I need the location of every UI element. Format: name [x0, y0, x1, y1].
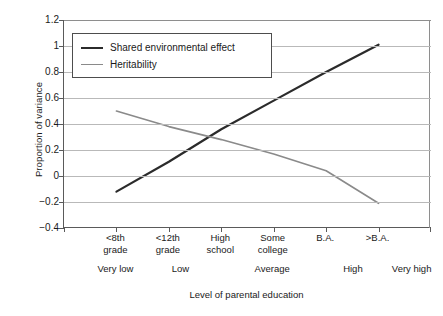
y-axis-tick-label: 0	[29, 171, 59, 181]
x-axis-category-labels: <8thgrade<12thgradeHighschoolSomecollege…	[63, 232, 430, 258]
x-axis-category-label-line: college	[233, 244, 313, 256]
y-axis-tick-label: 0.6	[29, 93, 59, 103]
y-axis-tick-label: −0.2	[29, 197, 59, 207]
y-axis-tickmark	[59, 202, 64, 203]
legend-item-label: Shared environmental effect	[110, 42, 235, 53]
x-axis-group-label: Low	[130, 263, 230, 275]
gridline	[64, 98, 431, 99]
x-axis-group-labels: Very lowLowAverageHighVery high	[63, 263, 430, 277]
chart-container: Proportion of variance 1.210.80.60.40.20…	[0, 0, 443, 316]
x-axis-tickmark	[430, 227, 431, 232]
legend-item-shared-environmental-effect: Shared environmental effect	[81, 39, 271, 56]
gridline	[64, 124, 431, 125]
y-axis-tick-label: 0.4	[29, 119, 59, 129]
y-axis-tick-labels: 1.210.80.60.40.20−0.2−0.4	[28, 0, 59, 316]
gridline	[64, 150, 431, 151]
x-axis-title: Level of parental education	[63, 289, 430, 300]
gridline	[64, 202, 431, 203]
x-axis-group-label: Very high	[362, 263, 443, 275]
legend-item-heritability: Heritability	[81, 56, 271, 73]
y-axis-tickmark	[59, 72, 64, 73]
y-axis-tick-label: 1.2	[29, 15, 59, 25]
y-axis-tick-label: 1	[29, 41, 59, 51]
y-axis-tickmark	[59, 176, 64, 177]
y-axis-tickmark	[59, 46, 64, 47]
gridline	[64, 176, 431, 177]
x-axis-category-label-line: >B.A.	[338, 232, 418, 244]
y-axis-tick-label: 0.2	[29, 145, 59, 155]
y-axis-tickmark	[59, 150, 64, 151]
y-axis-tickmark	[59, 98, 64, 99]
y-axis-tick-label: −0.4	[29, 223, 59, 233]
legend-line-swatch-icon	[81, 47, 103, 49]
y-axis-tickmark	[59, 20, 64, 21]
gridline	[64, 20, 431, 21]
legend-item-label: Heritability	[110, 59, 157, 70]
y-axis-tick-label: 0.8	[29, 67, 59, 77]
legend-line-swatch-icon	[81, 64, 103, 65]
x-axis-category-label: >B.A.	[338, 232, 418, 244]
y-axis-tickmark	[59, 124, 64, 125]
legend: Shared environmental effect Heritability	[72, 33, 272, 78]
series-line	[116, 111, 378, 203]
